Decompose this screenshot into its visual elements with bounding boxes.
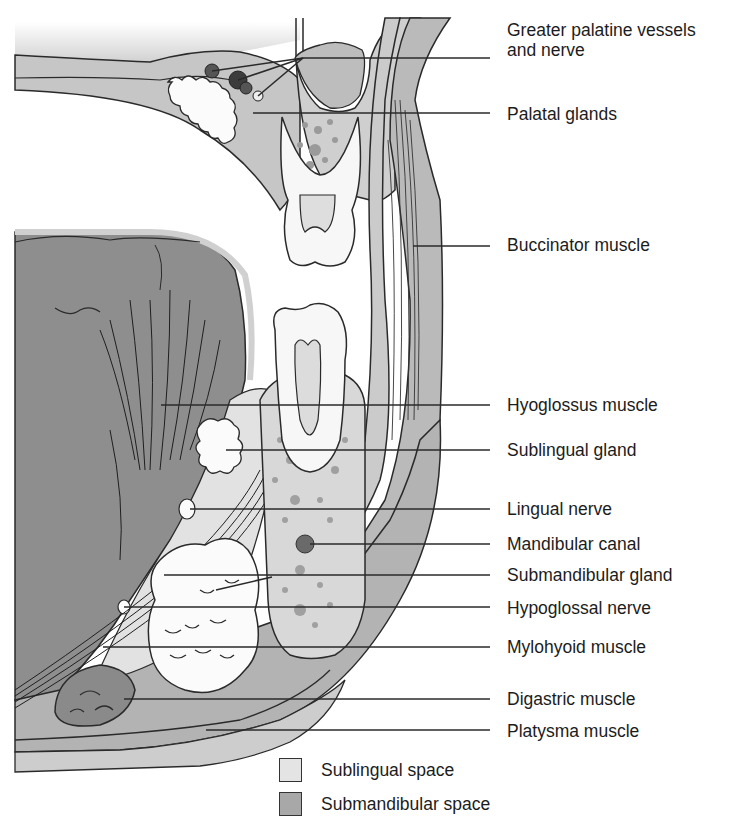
label-greater-palatine-vessels: Greater palatine vessels and nerve [507, 20, 696, 60]
label-hyoglossus-muscle: Hyoglossus muscle [507, 395, 658, 415]
label-platysma-muscle: Platysma muscle [507, 721, 639, 741]
label-sublingual-gland: Sublingual gland [507, 440, 636, 460]
anatomy-figure: Greater palatine vessels and nerve Palat… [0, 0, 738, 831]
label-lingual-nerve: Lingual nerve [507, 499, 612, 519]
label-hypoglossal-nerve: Hypoglossal nerve [507, 598, 651, 618]
label-line-1: Greater palatine vessels [507, 20, 696, 40]
label-line-2: and nerve [507, 40, 696, 60]
palate-region [15, 18, 303, 210]
label-buccinator-muscle: Buccinator muscle [507, 235, 650, 255]
legend-swatch-submandibular [279, 792, 302, 816]
label-mylohyoid-muscle: Mylohyoid muscle [507, 637, 646, 657]
label-palatal-glands: Palatal glands [507, 104, 617, 124]
legend-label: Submandibular space [321, 794, 490, 815]
label-submandibular-gland: Submandibular gland [507, 565, 672, 585]
mandible-and-lower-molar [260, 304, 365, 659]
submandibular-gland-shape [148, 539, 258, 693]
legend-label: Sublingual space [321, 760, 454, 781]
label-mandibular-canal: Mandibular canal [507, 534, 640, 554]
legend-swatch-sublingual [279, 758, 302, 782]
label-digastric-muscle: Digastric muscle [507, 689, 635, 709]
